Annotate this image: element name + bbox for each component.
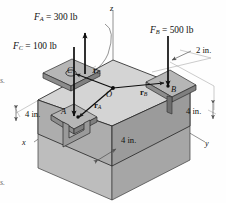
force-fc-value: 100: [33, 41, 47, 51]
dimension-label-4in-bottom: 4 in.: [121, 136, 136, 145]
dim-4in-left-unit: in.: [31, 109, 40, 119]
force-fc-equals: =: [25, 41, 30, 51]
point-a-marker: [76, 115, 79, 118]
point-label-c: C: [67, 67, 73, 75]
force-fa-subscript: A: [40, 15, 44, 22]
figure-canvas: FA = 300 lb FC = 100 lb FB = 500 lb rC r…: [0, 0, 226, 203]
dimension-label-4in-left: 4 in.: [25, 110, 40, 119]
position-vector-label-ra: rA: [94, 101, 101, 111]
bracket-b-web: [167, 96, 172, 114]
axis-label-z: z: [110, 5, 113, 13]
force-fa-value: 300: [54, 12, 68, 22]
margin-fragment-bottom: s.: [0, 178, 5, 187]
point-label-b: B: [171, 86, 176, 94]
dim-4in-bottom-value: 4: [121, 135, 125, 145]
force-fb-equals: =: [162, 25, 167, 35]
force-fa-unit: lb: [70, 12, 77, 22]
dim-4in-right-unit: in.: [192, 106, 201, 116]
force-fb-value: 500: [170, 25, 184, 35]
dimension-label-2in: 2 in.: [196, 46, 211, 55]
axis-label-y: y: [205, 140, 209, 148]
rc-subscript: C: [97, 69, 101, 75]
dim-4in-bottom-unit: in.: [127, 135, 136, 145]
point-label-o: O: [106, 91, 112, 99]
force-label-fb: FB = 500 lb: [150, 26, 193, 36]
ra-subscript: A: [98, 104, 102, 110]
point-b-marker: [166, 84, 169, 87]
rb-subscript: B: [144, 91, 148, 97]
position-vector-label-rb: rB: [140, 88, 147, 98]
force-fc-subscript: C: [19, 44, 23, 51]
position-vector-label-rc: rC: [93, 66, 101, 76]
dim-4in-right-value: 4: [186, 106, 190, 116]
dim-2in-unit: in.: [202, 45, 211, 55]
dim-arrow-2in: [172, 51, 191, 60]
force-label-fa: FA = 300 lb: [34, 13, 77, 23]
force-fc-unit: lb: [49, 41, 56, 51]
dim-4in-left-value: 4: [25, 109, 29, 119]
axis-label-x: x: [22, 139, 26, 147]
dim-2in-value: 2: [196, 45, 200, 55]
force-label-fc: FC = 100 lb: [13, 42, 57, 52]
force-fa-equals: =: [46, 12, 51, 22]
dimension-label-4in-right: 4 in.: [186, 107, 201, 116]
point-label-a: A: [61, 108, 66, 116]
margin-fragment-top: s.: [0, 76, 5, 85]
force-fb-unit: lb: [186, 25, 193, 35]
force-fb-subscript: B: [156, 28, 160, 35]
